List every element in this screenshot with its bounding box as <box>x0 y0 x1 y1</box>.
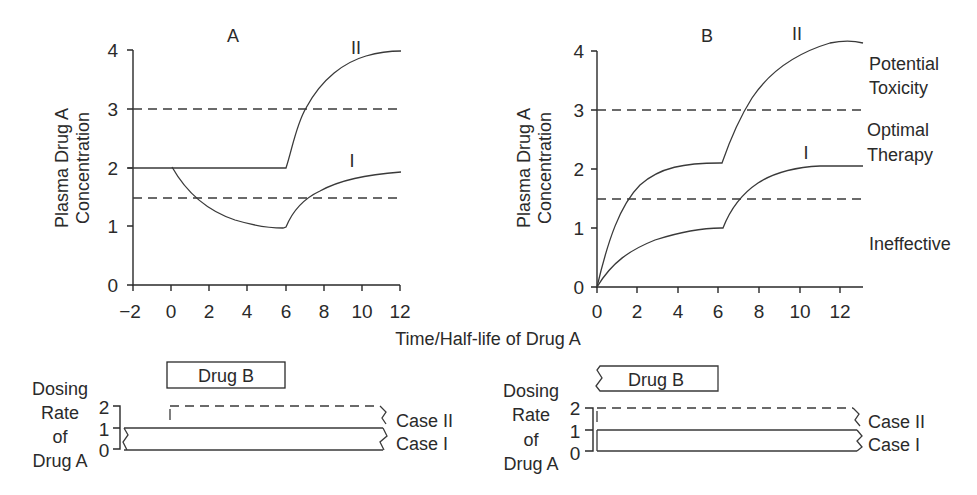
svg-text:0: 0 <box>166 301 177 322</box>
panel-b-axes <box>597 51 863 287</box>
panel-a-chart: A Plasma Drug A Concentration 0 1 2 3 4 … <box>52 26 411 322</box>
svg-text:10: 10 <box>789 301 810 322</box>
svg-text:12: 12 <box>829 301 850 322</box>
panel-b-title: B <box>701 26 713 46</box>
panel-a-curve-ii-label: II <box>351 38 361 58</box>
svg-text:8: 8 <box>754 301 765 322</box>
panel-b-ylabel: Plasma Drug A Concentration <box>514 108 555 228</box>
svg-text:Rate: Rate <box>41 403 79 423</box>
svg-text:Drug A: Drug A <box>503 454 558 474</box>
svg-text:4: 4 <box>673 301 684 322</box>
panel-b-curve-i <box>597 166 863 287</box>
svg-text:2: 2 <box>107 158 118 179</box>
panel-b-ylabel-line2: Concentration <box>535 112 555 224</box>
dosing-b-case-ii-break <box>853 408 860 426</box>
dosing-b-ylabel: Dosing Rate of Drug A <box>503 381 559 474</box>
svg-text:2: 2 <box>204 301 215 322</box>
svg-text:of: of <box>523 430 539 450</box>
svg-text:0: 0 <box>99 440 110 461</box>
svg-text:0: 0 <box>107 275 118 296</box>
dosing-b-case-i-break <box>857 430 862 451</box>
svg-text:2: 2 <box>632 301 643 322</box>
panel-a-title: A <box>227 26 239 46</box>
dosing-a-ylabel: Dosing Rate of Drug A <box>32 379 88 471</box>
panel-a-xtick-labels: −2 0 2 4 6 8 10 12 <box>119 301 410 322</box>
panel-b-yticks <box>591 51 597 287</box>
svg-text:4: 4 <box>573 41 584 62</box>
zone-optimal-line2: Therapy <box>867 145 933 165</box>
panel-b-chart: B Plasma Drug A Concentration 0 1 2 3 4 … <box>514 24 951 322</box>
svg-text:1: 1 <box>570 421 581 442</box>
svg-text:8: 8 <box>319 301 330 322</box>
svg-text:1: 1 <box>99 419 110 440</box>
svg-text:4: 4 <box>107 40 118 61</box>
dosing-a-case-ii-break <box>380 406 386 424</box>
dosing-panel-a: Drug B Dosing Rate of Drug A 2 1 0 Case … <box>32 362 453 471</box>
dosing-a-axis <box>113 406 120 449</box>
svg-text:3: 3 <box>573 100 584 121</box>
svg-text:Drug A: Drug A <box>32 451 87 471</box>
svg-text:2: 2 <box>99 397 110 418</box>
zone-toxicity-line1: Potential <box>869 54 939 74</box>
svg-text:−2: −2 <box>119 301 141 322</box>
svg-text:2: 2 <box>573 159 584 180</box>
panel-a-xticks <box>133 285 400 291</box>
dosing-a-case-i-break <box>380 428 387 450</box>
svg-text:4: 4 <box>242 301 253 322</box>
svg-text:Rate: Rate <box>512 405 550 425</box>
panel-b-ylabel-line1: Plasma Drug A <box>514 108 534 228</box>
svg-text:0: 0 <box>570 443 581 464</box>
zone-optimal-line1: Optimal <box>867 120 929 140</box>
svg-text:12: 12 <box>389 301 410 322</box>
svg-text:0: 0 <box>592 301 603 322</box>
panel-b-xtick-labels: 0 2 4 6 8 10 12 <box>592 301 851 322</box>
drug-b-label-a: Drug B <box>198 366 254 386</box>
dosing-b-yticks: 2 1 0 <box>570 398 581 464</box>
dosing-b-axis <box>585 408 593 451</box>
svg-text:of: of <box>52 427 68 447</box>
shared-xlabel: Time/Half-life of Drug A <box>395 329 580 349</box>
zone-ineffective: Ineffective <box>869 234 951 254</box>
svg-text:Dosing: Dosing <box>503 381 559 401</box>
panel-a-ylabel-line1: Plasma Drug A <box>52 108 72 228</box>
panel-b-ytick-labels: 0 1 2 3 4 <box>573 41 584 298</box>
dosing-panel-b: Drug B Dosing Rate of Drug A 2 1 0 Case … <box>503 366 925 474</box>
panel-b-curve-ii <box>597 41 863 287</box>
panel-b-curve-i-label: I <box>803 143 808 163</box>
dosing-b-case-ii-label: Case II <box>868 412 925 432</box>
panel-a-ylabel: Plasma Drug A Concentration <box>52 108 93 228</box>
svg-text:6: 6 <box>281 301 292 322</box>
svg-text:Dosing: Dosing <box>32 379 88 399</box>
panel-a-ytick-labels: 0 1 2 3 4 <box>107 40 118 296</box>
figure-canvas: A Plasma Drug A Concentration 0 1 2 3 4 … <box>0 0 977 495</box>
svg-text:3: 3 <box>107 99 118 120</box>
dosing-a-case-i <box>123 428 383 450</box>
dosing-a-yticks: 2 1 0 <box>99 397 110 461</box>
drug-b-label-b: Drug B <box>628 370 684 390</box>
panel-b-zone-labels: Potential Toxicity Optimal Therapy Ineff… <box>867 54 951 254</box>
svg-text:1: 1 <box>107 216 118 237</box>
panel-a-curve-i-label: I <box>349 151 354 171</box>
svg-text:0: 0 <box>573 277 584 298</box>
panel-b-xticks <box>597 287 840 293</box>
svg-text:1: 1 <box>573 218 584 239</box>
svg-text:6: 6 <box>713 301 724 322</box>
dosing-b-case-i <box>597 430 857 451</box>
panel-b-curve-ii-label: II <box>792 24 802 44</box>
dosing-a-case-i-label: Case I <box>396 434 448 454</box>
svg-text:10: 10 <box>351 301 372 322</box>
zone-toxicity-line2: Toxicity <box>869 78 928 98</box>
dosing-a-case-ii-label: Case II <box>396 411 453 431</box>
svg-text:2: 2 <box>570 398 581 419</box>
panel-a-ylabel-line2: Concentration <box>73 112 93 224</box>
dosing-b-case-i-label: Case I <box>868 435 920 455</box>
